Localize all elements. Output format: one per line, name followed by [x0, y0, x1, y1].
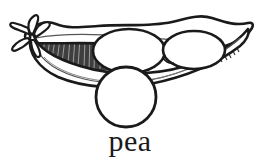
- figure-caption: pea: [108, 126, 151, 156]
- loose-pea: [96, 67, 156, 127]
- caption-row: pea: [0, 126, 260, 156]
- illustration-card: pea: [0, 0, 260, 162]
